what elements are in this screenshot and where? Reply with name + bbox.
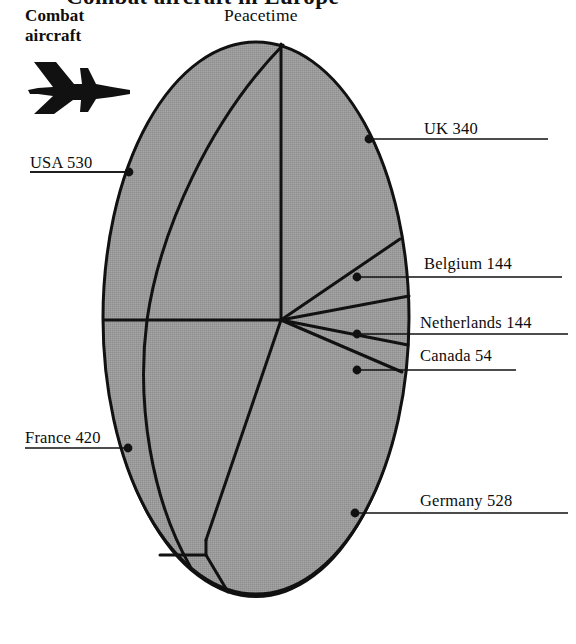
slice-label-uk: UK 340 [424, 119, 478, 138]
leader-dot-canada [353, 366, 362, 375]
slice-label-canada: Canada 54 [420, 346, 492, 365]
legend-line-2: aircraft [25, 26, 84, 46]
chart-title: Peacetime [224, 6, 298, 25]
leader-dot-usa [125, 168, 134, 177]
slice-label-belgium: Belgium 144 [424, 254, 512, 273]
slice-label-netherlands: Netherlands 144 [420, 313, 532, 332]
leader-dot-netherlands [353, 330, 362, 339]
legend-line-1: Combat [25, 6, 84, 26]
slice-label-usa: USA 530 [30, 153, 92, 172]
leader-dot-uk [365, 135, 374, 144]
chart-canvas: Combat aircraft in Europe [0, 0, 576, 644]
pie-body [103, 42, 409, 594]
leader-dot-france [124, 444, 133, 453]
leader-dot-belgium [353, 273, 362, 282]
slice-label-france: France 420 [25, 428, 101, 447]
slice-label-germany: Germany 528 [420, 491, 512, 510]
legend-combat-aircraft: Combat aircraft [25, 6, 84, 46]
leader-dot-germany [351, 509, 360, 518]
fighter-jet-icon [28, 62, 130, 114]
